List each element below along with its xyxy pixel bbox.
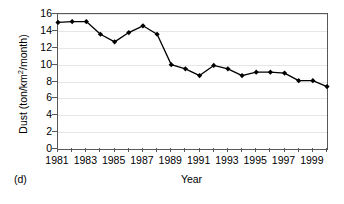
x-tick <box>284 148 285 152</box>
plot-area <box>57 13 328 150</box>
y-tick-label: 6 <box>22 91 52 103</box>
y-tick-label: 4 <box>22 108 52 120</box>
data-point-marker <box>239 73 244 78</box>
x-tick <box>255 148 256 152</box>
data-point-marker <box>225 66 230 71</box>
data-point-marker <box>55 20 60 25</box>
x-axis-ticks <box>57 148 326 153</box>
data-point-marker <box>70 19 75 24</box>
y-tick-label: 16 <box>22 7 52 19</box>
data-point-marker <box>296 78 301 83</box>
x-tick <box>71 148 72 152</box>
x-tick <box>170 148 171 152</box>
x-tick-label: 1999 <box>292 154 332 166</box>
x-tick <box>227 148 228 152</box>
x-tick-labels: 1981198319851987198919911993199519971999 <box>0 154 344 168</box>
data-point-marker <box>169 62 174 67</box>
x-tick <box>298 148 299 152</box>
x-tick <box>312 148 313 152</box>
data-point-marker <box>254 70 259 75</box>
x-tick <box>85 148 86 152</box>
x-tick <box>184 148 185 152</box>
series-dust <box>58 14 327 149</box>
x-axis-title: Year <box>57 173 326 185</box>
x-tick <box>213 148 214 152</box>
x-tick <box>99 148 100 152</box>
data-point-marker <box>282 70 287 75</box>
x-tick <box>269 148 270 152</box>
x-tick <box>142 148 143 152</box>
x-tick <box>199 148 200 152</box>
y-tick-label: 2 <box>22 125 52 137</box>
x-tick <box>326 148 327 152</box>
x-tick <box>114 148 115 152</box>
panel-label: (d) <box>14 173 27 185</box>
x-tick <box>156 148 157 152</box>
y-tick-label: 10 <box>22 58 52 70</box>
x-tick <box>128 148 129 152</box>
x-tick <box>241 148 242 152</box>
x-tick <box>57 148 58 152</box>
y-tick-label: 14 <box>22 24 52 36</box>
y-tick-label: 8 <box>22 75 52 87</box>
data-point-marker <box>268 70 273 75</box>
data-point-marker <box>310 78 315 83</box>
series-line <box>58 22 327 87</box>
figure-panel-d: Dust (ton/km2/month) 0246810121416 19811… <box>0 0 344 204</box>
series-markers <box>55 19 329 89</box>
y-tick-label: 0 <box>22 142 52 154</box>
data-point-marker <box>183 66 188 71</box>
y-tick-label: 12 <box>22 41 52 53</box>
data-point-marker <box>324 84 329 89</box>
